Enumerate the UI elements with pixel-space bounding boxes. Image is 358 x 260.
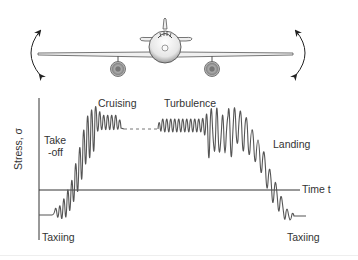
stress-chart [39,98,306,240]
label-turbulence: Turbulence [164,98,216,110]
label-taxiing-start: Taxiing [42,232,75,244]
flex-arrow-right-icon [296,31,305,75]
stress-time-diagram: Stress, σ Time t Taxiing Take -off Cruis… [0,0,358,260]
airplane-illustration [31,18,305,77]
label-cruising: Cruising [98,98,137,110]
label-takeoff-line2: -off [48,147,63,159]
stress-signal [39,106,124,218]
y-axis-label: Stress, σ [12,128,24,170]
bottom-divider [0,255,358,256]
left-engine-icon [111,62,126,77]
label-landing: Landing [273,139,310,151]
label-takeoff-line1: Take [44,135,66,147]
turbulence-signal [158,108,306,221]
right-engine-icon [205,62,220,77]
tail-fin-icon [163,18,167,29]
label-taxiing-end: Taxiing [287,232,320,244]
x-axis-label: Time t [302,184,331,196]
